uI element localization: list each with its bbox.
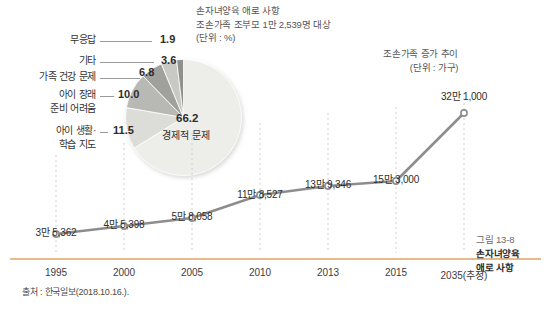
axis-baseline [10, 258, 541, 260]
pie-value-no-response: 1.9 [160, 33, 175, 45]
figure-caption: 그림 13-8 손자녀양육 애로 사항 [476, 233, 520, 275]
data-label-2000: 4만 5,398 [89, 216, 159, 231]
line-chart [0, 85, 551, 270]
figure-caption-line2: 애로 사항 [476, 261, 520, 275]
pie-callout-family-health: 가족 건강 문제 [14, 70, 96, 84]
figure-caption-line1: 손자녀양육 [476, 247, 520, 261]
data-label-2035: 32만 1,000 [426, 88, 502, 103]
xaxis-tick-1995: 1995 [26, 267, 86, 278]
data-point-2035 [461, 110, 467, 116]
xaxis-tick-2015: 2015 [366, 267, 426, 278]
source-note: 출처 : 한국일보(2018.10.16.). [22, 285, 129, 298]
figure-number: 그림 13-8 [476, 234, 514, 245]
data-label-1995: 3만 5,362 [21, 224, 91, 239]
data-label-2005: 5만 8,058 [157, 208, 227, 223]
line-chart-title-block: 조손가족 증가 추이 (단위 : 가구) [383, 47, 458, 74]
line-title-unit: (단위 : 가구) [383, 61, 458, 75]
pie-title-line1: 손자녀양육 애로 사항 [196, 4, 330, 18]
xaxis-tick-2010: 2010 [230, 267, 290, 278]
line-title-line1: 조손가족 증가 추이 [383, 47, 458, 61]
pie-chart-title-block: 손자녀양육 애로 사항 조손가족 조부모 1만 2,539명 대상 (단위 : … [196, 4, 330, 45]
pie-title-unit: (단위 : %) [196, 31, 330, 45]
data-label-2010: 11만 8,527 [222, 186, 298, 201]
leader-line-family-health [100, 78, 140, 79]
leader-line-etc [100, 62, 154, 63]
pie-value-etc: 3.6 [161, 54, 176, 66]
xaxis-tick-2000: 2000 [94, 267, 154, 278]
pie-callout-etc: 기타 [64, 54, 96, 68]
infographic-canvas: 손자녀양육 애로 사항 조손가족 조부모 1만 2,539명 대상 (단위 : … [0, 0, 551, 309]
xaxis-tick-2005: 2005 [162, 267, 222, 278]
xaxis-tick-2013: 2013 [298, 267, 358, 278]
data-label-2013: 13만 9,346 [290, 176, 366, 191]
line-chart-svg [0, 85, 551, 270]
pie-value-family-health: 6.8 [139, 66, 154, 78]
pie-title-line2: 조손가족 조부모 1만 2,539명 대상 [196, 18, 330, 32]
leader-line-no-response [100, 41, 152, 42]
data-label-2015: 15만 3,000 [358, 171, 434, 186]
pie-callout-no-response: 무응답 [44, 33, 96, 47]
